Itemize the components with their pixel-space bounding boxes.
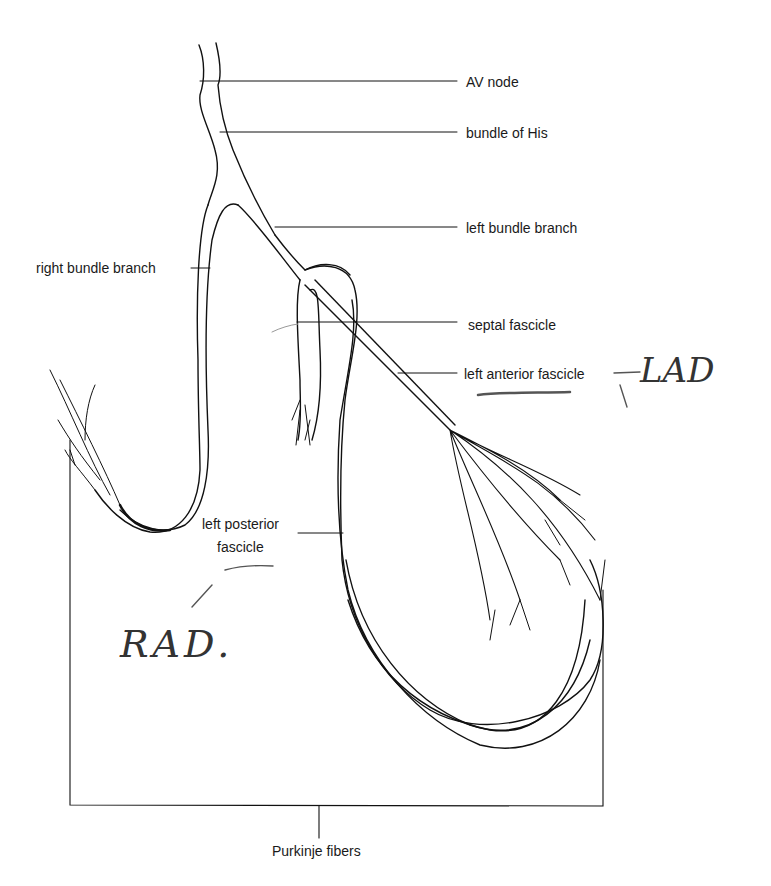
anterior-twigs — [490, 500, 605, 640]
label-left-posterior-fascicle-2: fascicle — [217, 539, 264, 555]
left-bundle-branch-a — [238, 205, 300, 280]
label-av-node: AV node — [466, 74, 519, 90]
right-bundle-branch-outer — [95, 205, 208, 532]
handwritten-rad: RAD. — [120, 622, 233, 666]
handwritten-lad: LAD — [640, 350, 714, 390]
pencil-septal-mark — [272, 324, 298, 332]
pencil-rad-stroke — [192, 566, 273, 607]
label-left-anterior-fascicle: left anterior fascicle — [464, 366, 585, 382]
pencil-underline — [478, 392, 570, 395]
left-posterior-loop — [305, 266, 603, 724]
septal-fascicle-2 — [310, 289, 321, 440]
right-bundle-branch-inner — [120, 204, 238, 530]
label-septal-fascicle: septal fascicle — [468, 317, 556, 333]
his-bundle-outline-left — [199, 45, 217, 205]
label-purkinje-fibers: Purkinje fibers — [272, 843, 361, 859]
label-right-bundle-branch: right bundle branch — [36, 260, 156, 276]
right-branch-thick-bottom — [120, 505, 170, 531]
label-left-bundle-branch: left bundle branch — [466, 220, 577, 236]
pencil-lad-stroke — [614, 372, 640, 407]
left-anterior-fascicle — [305, 285, 450, 430]
right-purkinje-twigs — [50, 370, 120, 505]
label-bundle-of-his: bundle of His — [466, 125, 548, 141]
anterior-fan — [450, 430, 600, 620]
conduction-system-drawing — [0, 0, 771, 886]
left-anterior-fascicle-2 — [315, 280, 455, 425]
his-bundle-outline-right — [216, 43, 275, 235]
label-left-posterior-fascicle-1: left posterior — [202, 516, 279, 532]
